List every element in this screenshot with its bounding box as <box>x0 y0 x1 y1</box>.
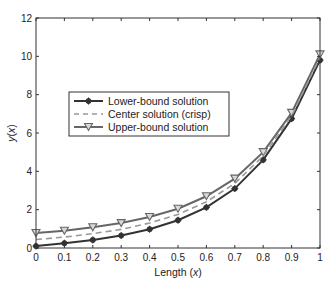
series-0 <box>33 57 324 250</box>
x-tick-label: 0 <box>33 252 39 263</box>
legend-label: Upper-bound solution <box>108 121 209 133</box>
legend-label: Lower-bound solution <box>108 95 209 107</box>
x-tick-label: 0.2 <box>86 252 100 263</box>
star-marker-icon <box>118 232 125 239</box>
x-tick-label: 0.4 <box>143 252 157 263</box>
x-tick-label: 0.6 <box>199 252 213 263</box>
legend: Lower-bound solutionCenter solution (cri… <box>69 92 229 136</box>
star-marker-icon <box>146 226 153 233</box>
x-tick-label: 1 <box>317 252 323 263</box>
y-tick-label: 8 <box>26 89 32 100</box>
y-tick-label: 0 <box>26 243 32 254</box>
triangle-marker-icon <box>202 193 210 200</box>
star-marker-icon <box>175 217 182 224</box>
y-tick-label: 12 <box>21 13 33 24</box>
line-chart: 00.10.20.30.40.50.60.70.80.91024681012 L… <box>0 0 335 291</box>
x-tick-label: 0.5 <box>171 252 185 263</box>
y-tick-label: 10 <box>21 51 33 62</box>
x-tick-label: 0.1 <box>57 252 71 263</box>
x-axis-title: Length (x) <box>154 266 201 278</box>
y-tick-label: 4 <box>26 166 32 177</box>
legend-label: Center solution (crisp) <box>108 108 211 120</box>
y-axis-title: y(x) <box>5 124 17 143</box>
star-marker-icon <box>89 236 96 243</box>
x-tick-label: 0.7 <box>228 252 242 263</box>
series-layer <box>32 51 324 250</box>
x-tick-label: 0.8 <box>256 252 270 263</box>
x-tick-label: 0.3 <box>114 252 128 263</box>
y-tick-label: 2 <box>26 204 32 215</box>
y-tick-label: 6 <box>26 128 32 139</box>
series-2 <box>32 51 324 237</box>
x-tick-label: 0.9 <box>285 252 299 263</box>
